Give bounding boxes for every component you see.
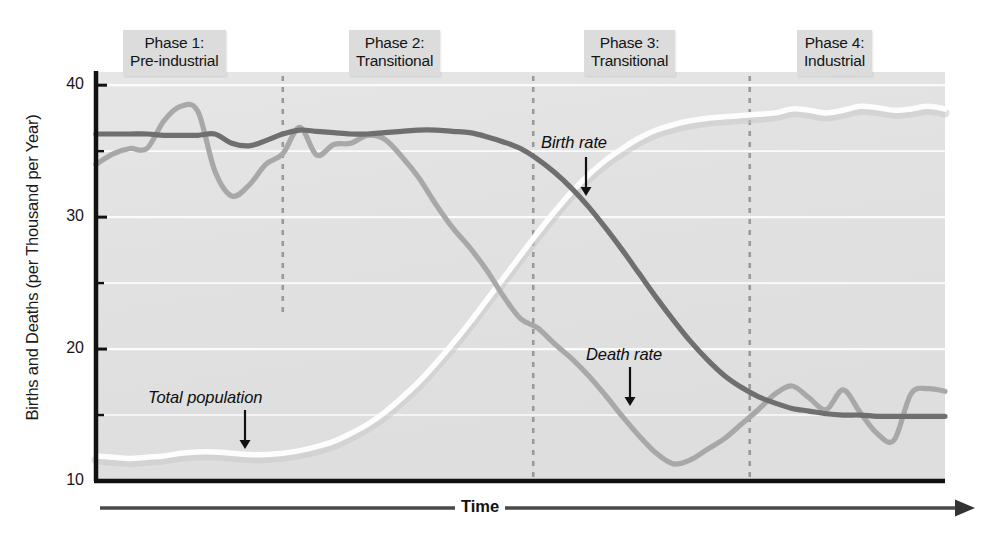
plot-background xyxy=(96,72,945,481)
phase-label-3: Phase 3:Transitional xyxy=(584,30,675,76)
phase-label-line1: Phase 4: xyxy=(805,34,865,51)
birth-rate-label: Birth rate xyxy=(541,133,607,152)
phase-label-line2: Pre-industrial xyxy=(130,52,219,70)
phase-label-line1: Phase 2: xyxy=(365,34,425,51)
y-tick-label: 20 xyxy=(44,339,84,357)
demographic-transition-figure: Births and Deaths (per Thousand per Year… xyxy=(0,0,990,545)
y-tick-label: 40 xyxy=(44,75,84,93)
y-axis-title: Births and Deaths (per Thousand per Year… xyxy=(23,68,42,468)
phase-label-line1: Phase 1: xyxy=(144,34,204,51)
phase-label-line2: Transitional xyxy=(591,52,668,70)
y-tick-label: 10 xyxy=(44,471,84,489)
phase-label-1: Phase 1:Pre-industrial xyxy=(123,30,226,76)
phase-label-line2: Transitional xyxy=(356,52,433,70)
y-tick-label: 30 xyxy=(44,207,84,225)
x-axis-title: Time xyxy=(455,497,505,516)
phase-label-line2: Industrial xyxy=(804,52,865,70)
time-axis-arrow-head xyxy=(955,500,975,517)
total-population-label: Total population xyxy=(148,388,262,407)
chart-canvas xyxy=(0,0,990,545)
death-rate-label: Death rate xyxy=(586,345,662,364)
phase-label-4: Phase 4:Industrial xyxy=(797,30,872,76)
phase-label-2: Phase 2:Transitional xyxy=(349,30,440,76)
phase-label-line1: Phase 3: xyxy=(600,34,660,51)
